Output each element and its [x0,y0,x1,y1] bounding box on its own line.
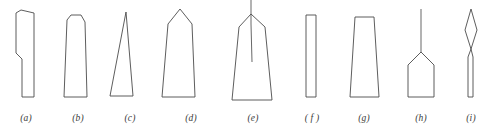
figure-plate: (a)(b)(c)(d)(e)( f )(g)(h)(i) [0,0,487,129]
shape-label-g: (g) [358,112,370,124]
shape-label-row: (a)(b)(c)(d)(e)( f )(g)(h)(i) [0,0,487,129]
shape-label-e: (e) [247,112,258,124]
shape-label-a: (a) [20,112,32,124]
shape-label-c: (c) [124,112,135,124]
shape-label-d: (d) [185,112,197,124]
shape-label-b: (b) [72,112,84,124]
shape-label-h: (h) [415,112,427,124]
shape-label-f: ( f ) [305,112,320,124]
shape-label-i: (i) [466,112,476,124]
